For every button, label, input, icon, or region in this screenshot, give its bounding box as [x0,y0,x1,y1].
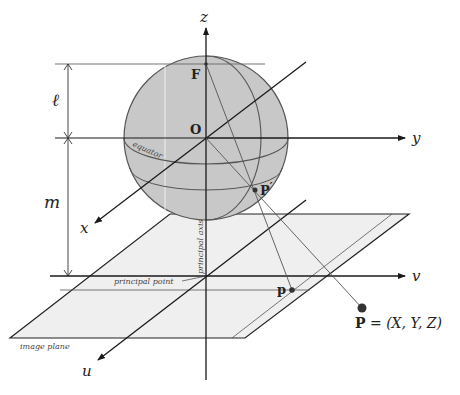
sphere-point-label: P′ [260,180,273,198]
z-axis-label: z [199,8,208,26]
y-axis-label: y [411,129,421,147]
image-plane-label: image plane [20,342,70,351]
principal-point-label: principal point [114,277,174,286]
dimension-l-label: ℓ [52,90,59,110]
v-axis-label: v [412,267,421,285]
u-axis-label: u [82,362,92,380]
image-point-label: p [277,282,286,297]
diagram-canvas: ℓ m z y x v u F [0,0,460,395]
world-point-label: P = (X, Y, Z) [355,315,442,331]
focal-point-label: F [191,67,201,82]
origin-label: O [190,122,201,137]
dimension-m-label: m [44,192,60,212]
x-axis-label: x [80,219,89,237]
principal-axis-label: principal axis [196,219,205,274]
